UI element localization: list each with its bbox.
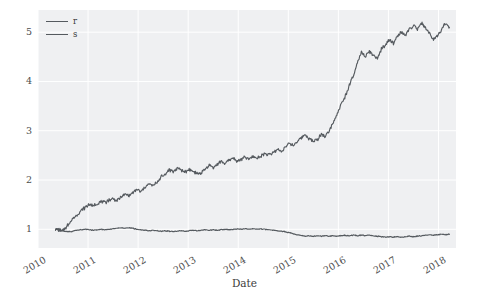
x-tick-label: 2013 [171,254,197,276]
x-tick-label: 2012 [121,254,147,276]
y-tick-label: 4 [6,76,32,86]
x-axis-label: Date [0,277,489,289]
x-tick-label: 2016 [322,254,348,276]
legend-item-r[interactable]: r [46,16,77,26]
series-line-s [56,228,450,238]
y-tick-label: 2 [6,175,32,185]
x-tick-label: 2018 [422,254,448,276]
series-lines [38,10,456,248]
x-tick-label: 2017 [372,254,398,276]
series-line-r [56,22,450,231]
y-tick-label: 1 [6,224,32,234]
plot-area [38,10,456,248]
chart-legend: r s [44,14,81,41]
x-tick-label: 2015 [272,254,298,276]
legend-swatch-r [46,21,68,22]
y-tick-label: 3 [6,126,32,136]
legend-swatch-s [46,34,68,35]
x-tick-label: 2011 [71,254,97,276]
legend-item-s[interactable]: s [46,29,77,39]
x-tick-label: 2010 [21,254,47,276]
legend-label-r: r [73,17,77,26]
legend-label-s: s [73,30,77,39]
x-tick-label: 2014 [221,254,247,276]
chart-figure: 12345 2010201120122013201420152016201720… [0,0,489,298]
y-tick-label: 5 [6,27,32,37]
